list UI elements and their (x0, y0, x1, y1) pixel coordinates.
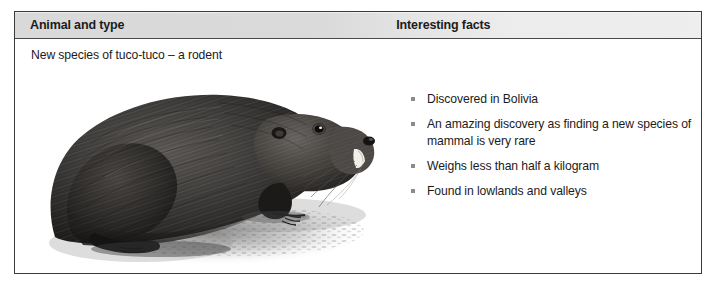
cell-interesting-facts: Discovered in Bolivia An amazing discove… (390, 39, 701, 273)
page-root: Animal and type Interesting facts New sp… (0, 0, 718, 290)
list-item: Weighs less than half a kilogram (410, 158, 700, 175)
bullet-icon (411, 97, 415, 101)
fact-text: Found in lowlands and valleys (427, 184, 587, 198)
cell-animal-and-type: New species of tuco-tuco – a rodent (15, 39, 390, 273)
column-header-interesting-facts: Interesting facts (396, 18, 490, 32)
table-body-row: New species of tuco-tuco – a rodent (15, 39, 701, 273)
list-item: Discovered in Bolivia (410, 91, 700, 108)
bullet-icon (411, 189, 415, 193)
fact-text: Discovered in Bolivia (427, 92, 538, 106)
table-header-row: Animal and type Interesting facts (15, 12, 701, 39)
column-header-animal-and-type: Animal and type (15, 18, 124, 32)
bullet-icon (411, 164, 415, 168)
animal-caption: New species of tuco-tuco – a rodent (31, 48, 222, 62)
bullet-icon (411, 122, 415, 126)
list-item: Found in lowlands and valleys (410, 183, 700, 200)
list-item: An amazing discovery as finding a new sp… (410, 116, 700, 149)
tuco-tuco-rodent-illustration (21, 65, 389, 270)
fact-text: An amazing discovery as finding a new sp… (427, 117, 691, 148)
interesting-facts-list: Discovered in Bolivia An amazing discove… (410, 91, 700, 208)
animal-facts-table: Animal and type Interesting facts New sp… (14, 11, 702, 274)
fact-text: Weighs less than half a kilogram (427, 159, 599, 173)
